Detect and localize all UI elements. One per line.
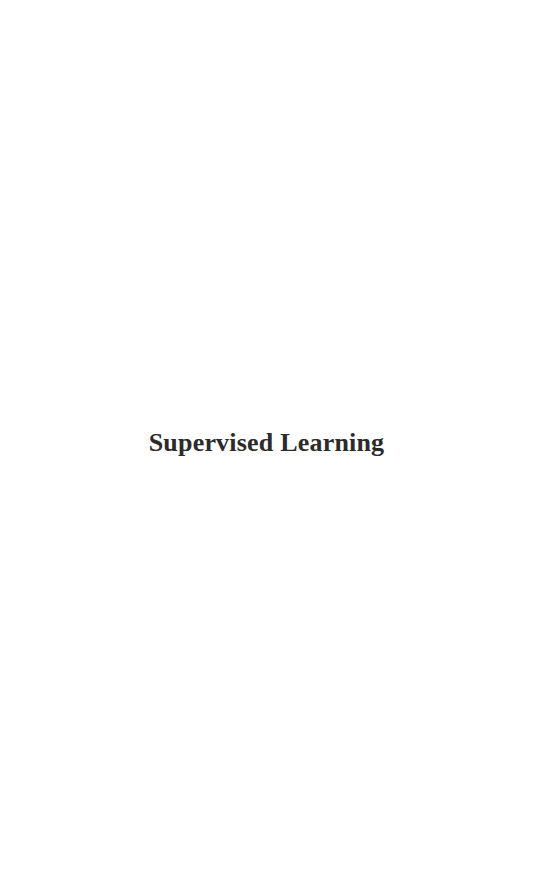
book-page: Supervised Learning	[0, 0, 533, 882]
part-title: Supervised Learning	[0, 426, 533, 460]
